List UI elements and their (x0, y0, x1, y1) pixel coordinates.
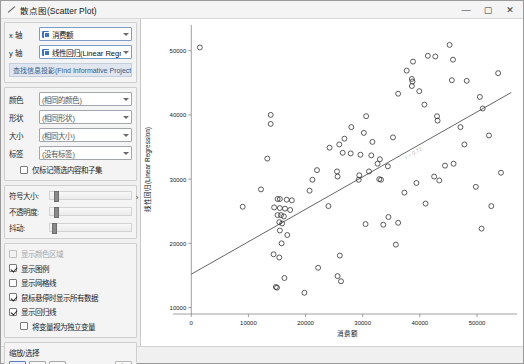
scatter-point[interactable] (479, 226, 484, 231)
fit-to-window-icon[interactable]: ⛶ (115, 361, 132, 364)
scatter-point[interactable] (391, 135, 396, 140)
scatter-point[interactable] (284, 197, 289, 202)
jitter-slider[interactable] (49, 223, 132, 232)
scatter-point[interactable] (458, 125, 463, 130)
label-select[interactable]: (没有标签) (39, 146, 132, 160)
scatter-point[interactable] (464, 78, 469, 83)
show-legend-checkbox[interactable]: 显示图例 (9, 263, 132, 274)
scatter-point[interactable] (437, 178, 442, 183)
scatter-point[interactable] (411, 59, 416, 64)
show-all-data-on-hover-checkbox[interactable]: 鼠标悬停时显示所有数据 (9, 292, 132, 303)
slider-thumb[interactable] (52, 223, 57, 234)
scatter-point[interactable] (422, 102, 427, 107)
scatter-point[interactable] (272, 205, 277, 210)
scatter-point[interactable] (279, 241, 284, 246)
scatter-point[interactable] (339, 279, 344, 284)
scatter-point[interactable] (433, 54, 438, 59)
scatter-point[interactable] (349, 125, 354, 130)
scatter-point[interactable] (281, 214, 286, 219)
scatter-point[interactable] (432, 174, 437, 179)
scatter-point[interactable] (370, 139, 375, 144)
scatter-point[interactable] (364, 114, 369, 119)
scatter-point[interactable] (285, 233, 290, 238)
scatter-point[interactable] (268, 112, 273, 117)
treat-as-independent-checkbox[interactable]: 将变量视为独立变量 (9, 321, 132, 332)
scatter-point[interactable] (499, 170, 504, 175)
scatter-point[interactable] (288, 207, 293, 212)
scatter-point[interactable] (393, 242, 398, 247)
scatter-point[interactable] (487, 133, 492, 138)
scatter-point[interactable] (496, 71, 501, 76)
scatter-point[interactable] (375, 161, 380, 166)
opacity-slider[interactable] (49, 207, 132, 216)
maximize-button[interactable]: ▢ (477, 2, 499, 18)
scatter-point[interactable] (414, 181, 419, 186)
scatter-point[interactable] (335, 174, 340, 179)
scatter-point[interactable] (443, 163, 448, 168)
scatter-point[interactable] (404, 68, 409, 73)
sidebar-collapse-handle[interactable]: › (133, 187, 141, 207)
slider-thumb[interactable] (54, 191, 59, 202)
reset-zoom-tool-icon[interactable]: ↺ (29, 361, 46, 364)
scatter-point[interactable] (361, 130, 366, 135)
zoom-tool-icon[interactable]: ⌕ (49, 361, 66, 364)
scatter-point[interactable] (342, 136, 347, 141)
y-axis-select[interactable]: 线性回归(Linear Regression) (39, 45, 132, 59)
symbol-size-slider[interactable] (49, 191, 132, 200)
scatter-point[interactable] (451, 161, 456, 166)
scatter-plot-svg[interactable]: 1000020000300004000050000010000200003000… (141, 19, 523, 346)
scatter-point[interactable] (282, 276, 287, 281)
scatter-point[interactable] (381, 222, 386, 227)
scatter-point[interactable] (327, 145, 332, 150)
scatter-point[interactable] (449, 78, 454, 83)
scatter-point[interactable] (425, 53, 430, 58)
scatter-point[interactable] (396, 91, 401, 96)
scatter-point[interactable] (289, 198, 294, 203)
scatter-point[interactable] (335, 274, 340, 279)
show-regression-line-checkbox[interactable]: 显示回归线 (9, 306, 132, 317)
scatter-point[interactable] (369, 153, 374, 158)
scatter-point[interactable] (402, 190, 407, 195)
cursor-select-tool-icon[interactable]: ⬉ (9, 361, 26, 364)
scatter-point[interactable] (451, 57, 456, 62)
scatter-point[interactable] (307, 188, 312, 193)
close-button[interactable]: ✕ (499, 2, 521, 18)
scatter-point[interactable] (489, 204, 494, 209)
scatter-point[interactable] (396, 220, 401, 225)
scatter-point[interactable] (271, 252, 276, 257)
scatter-point[interactable] (337, 142, 342, 147)
scatter-point[interactable] (197, 45, 202, 50)
scatter-point[interactable] (348, 151, 353, 156)
scatter-point[interactable] (326, 204, 331, 209)
show-gridlines-checkbox[interactable]: 显示网格线 (9, 277, 132, 288)
scatter-point[interactable] (259, 187, 264, 192)
scatter-point[interactable] (358, 152, 363, 157)
size-select[interactable]: (相同大小) (39, 128, 132, 142)
scatter-point[interactable] (363, 222, 368, 227)
scatter-point[interactable] (277, 255, 282, 260)
scatter-point[interactable] (462, 142, 467, 147)
color-select[interactable]: (相同的颜色) (39, 92, 132, 106)
scatter-point[interactable] (310, 177, 315, 182)
scatter-point[interactable] (315, 168, 320, 173)
scatter-point[interactable] (265, 156, 270, 161)
scatter-point[interactable] (302, 290, 307, 295)
scatter-point[interactable] (340, 150, 345, 155)
shape-select[interactable]: (相同形状) (39, 110, 132, 124)
x-axis-select[interactable]: 消费额 (39, 27, 132, 41)
find-informative-projections-link[interactable]: 查找信息投影(Find Informative Projections) (9, 63, 132, 77)
scatter-point[interactable] (277, 206, 282, 211)
scatter-point[interactable] (277, 228, 282, 233)
scatter-plot-canvas[interactable]: 1000020000300004000050000010000200003000… (141, 19, 523, 346)
scatter-point[interactable] (283, 206, 288, 211)
scatter-point[interactable] (447, 42, 452, 47)
scatter-point[interactable] (473, 184, 478, 189)
scatter-point[interactable] (335, 169, 340, 174)
label-only-selection-checkbox[interactable]: 仅标记筛选内容和子集 (9, 164, 132, 175)
scatter-point[interactable] (386, 215, 391, 220)
scatter-point[interactable] (385, 164, 390, 169)
scatter-point[interactable] (268, 121, 273, 126)
scatter-point[interactable] (423, 201, 428, 206)
scatter-point[interactable] (477, 94, 482, 99)
slider-thumb[interactable] (54, 207, 59, 218)
